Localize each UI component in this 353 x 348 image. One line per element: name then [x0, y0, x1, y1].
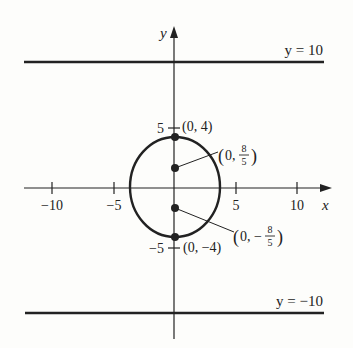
- focus-bottom-paren-open: (: [233, 227, 239, 248]
- x-axis-arrow-icon: [320, 184, 332, 192]
- focus-top-num: 8: [242, 143, 247, 154]
- vertex-bottom-label: (0, −4): [183, 240, 222, 256]
- line-y-10-label: y = 10: [285, 42, 323, 58]
- focus-bottom-prefix: 0, −: [240, 229, 262, 244]
- focus-top-label: ( 0, 8 5 ): [218, 143, 257, 167]
- x-axis-label: x: [321, 197, 329, 213]
- x-tick-label-neg5: −5: [107, 198, 122, 213]
- y-axis-label: y: [158, 25, 167, 41]
- focus-bottom-paren-close: ): [277, 227, 283, 248]
- vertex-top-label: (0, 4): [182, 119, 213, 135]
- y-tick-label-neg5: −5: [149, 241, 164, 256]
- focus-bottom-leader: [175, 208, 234, 232]
- focus-top-paren-open: (: [218, 146, 224, 167]
- focus-top-prefix: 0,: [225, 148, 236, 163]
- diagram-canvas: y x −10 −5 5 10 5 −5 (0, 4) (0, −4) ( 0,…: [0, 0, 353, 348]
- line-y-neg-10-label: y = −10: [276, 293, 323, 309]
- focus-bottom-num: 8: [268, 224, 273, 235]
- vertex-bottom-point: [171, 233, 179, 241]
- focus-bottom-label: ( 0, − 8 5 ): [233, 224, 283, 248]
- focus-top-leader: [175, 152, 218, 168]
- x-tick-label-neg10: −10: [41, 198, 63, 213]
- coordinate-plot: y x −10 −5 5 10 5 −5 (0, 4) (0, −4) ( 0,…: [0, 0, 353, 348]
- focus-bottom-den: 5: [268, 237, 273, 248]
- vertex-top-point: [171, 133, 179, 141]
- y-tick-label-5: 5: [157, 121, 164, 136]
- y-axis-arrow-icon: [170, 26, 178, 38]
- focus-top-den: 5: [242, 156, 247, 167]
- ellipse-curve: [130, 137, 220, 237]
- x-tick-label-5: 5: [233, 198, 240, 213]
- x-tick-label-10: 10: [290, 198, 304, 213]
- focus-top-paren-close: ): [251, 146, 257, 167]
